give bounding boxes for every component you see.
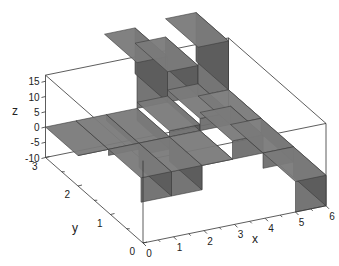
- bar: [263, 147, 326, 212]
- x-tick-label: 5: [299, 217, 305, 228]
- y-tick-label: 0: [129, 246, 135, 257]
- x-tick-label: 1: [177, 242, 183, 253]
- z-tick-label: 15: [28, 76, 40, 87]
- y-tick-label: 2: [64, 189, 70, 200]
- x-tick-label: 6: [329, 211, 335, 222]
- z-tick-label: 10: [28, 92, 40, 103]
- x-tick-label: 4: [268, 223, 274, 234]
- z-tick-label: -10: [25, 153, 40, 164]
- x-tick-label: 0: [146, 248, 152, 259]
- x-tick-label: 3: [238, 229, 244, 240]
- y-axis-label: y: [72, 221, 78, 235]
- z-axis-label: z: [12, 104, 18, 118]
- x-axis-label: x: [252, 232, 258, 246]
- z-tick-label: 5: [34, 107, 40, 118]
- z-tick-label: 0: [34, 122, 40, 133]
- x-tick-label: 2: [207, 236, 213, 247]
- z-tick-label: -5: [31, 137, 40, 148]
- y-tick-label: 1: [97, 218, 103, 229]
- bar3d-chart: 01234560123-10-5051015 x y z: [0, 0, 339, 266]
